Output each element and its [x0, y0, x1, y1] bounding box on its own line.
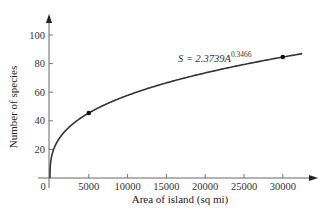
x-tick-label: 10000 [114, 181, 140, 192]
x-axis-arrow-icon [309, 175, 318, 181]
equation-exponent: 0.3466 [231, 50, 252, 59]
x-tick-label: 25000 [231, 181, 257, 192]
y-tick-label: 100 [29, 30, 45, 41]
data-point [87, 111, 92, 116]
y-tick-label: 80 [35, 58, 46, 69]
x-tick-label: 0 [40, 181, 45, 192]
x-tick-label: 15000 [153, 181, 179, 192]
equation-annotation: S = 2.3739A0.3466 [178, 50, 252, 64]
x-axis-title: Area of island (sq mi) [132, 193, 229, 206]
axes [38, 14, 318, 188]
data-point [281, 55, 286, 60]
species-area-curve [50, 54, 302, 178]
axis-ticks: 0500010000150002000025000300002040608010… [29, 30, 296, 193]
x-tick-label: 20000 [192, 181, 218, 192]
power-function-chart: 0500010000150002000025000300002040608010… [0, 0, 318, 215]
y-axis-title: Number of species [7, 66, 19, 148]
y-axis-arrow-icon [46, 14, 52, 23]
x-tick-label: 30000 [270, 181, 296, 192]
y-tick-label: 60 [35, 87, 46, 98]
y-tick-label: 20 [35, 144, 46, 155]
equation-text: S = 2.3739A [178, 53, 231, 64]
y-tick-label: 40 [35, 115, 46, 126]
x-tick-label: 5000 [78, 181, 99, 192]
